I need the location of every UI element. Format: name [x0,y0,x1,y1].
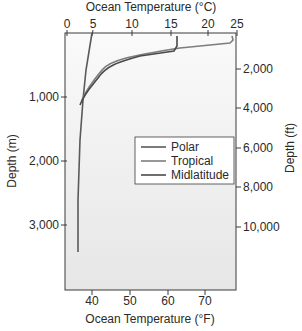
svg-text:3,000: 3,000 [29,218,59,232]
svg-text:4,000: 4,000 [243,101,273,115]
y-left-axis-label: Depth (m) [5,134,19,187]
legend-polar-label: Polar [171,140,199,154]
x-bottom-ticks: 40 50 60 70 [85,294,212,308]
svg-text:6,000: 6,000 [243,141,273,155]
svg-text:40: 40 [85,294,99,308]
svg-text:1,000: 1,000 [29,90,59,104]
svg-text:5: 5 [90,17,97,31]
y-right-ticks: 2,000 4,000 6,000 8,000 10,000 [243,62,280,234]
svg-text:2,000: 2,000 [29,154,59,168]
svg-text:70: 70 [198,294,212,308]
svg-text:0: 0 [64,17,71,31]
svg-text:10: 10 [125,17,139,31]
svg-text:60: 60 [161,294,175,308]
legend-midlatitude-label: Midlatitude [171,168,229,182]
svg-text:15: 15 [164,17,178,31]
y-left-ticks: 1,000 2,000 3,000 [29,90,59,232]
svg-text:50: 50 [123,294,137,308]
x-top-axis-label: Ocean Temperature (°C) [86,0,217,14]
svg-text:8,000: 8,000 [243,180,273,194]
x-top-ticks: 0 5 10 15 20 25 [64,17,244,31]
ocean-temperature-chart: Ocean Temperature (°C) 0 5 10 15 20 25 D… [0,0,302,331]
y-right-axis-label: Depth (ft) [283,123,297,173]
svg-text:10,000: 10,000 [243,220,280,234]
svg-text:20: 20 [201,17,215,31]
svg-text:2,000: 2,000 [243,62,273,76]
legend: Polar Tropical Midlatitude [135,137,234,184]
x-bottom-axis-label: Ocean Temperature (°F) [85,312,214,326]
legend-tropical-label: Tropical [171,154,213,168]
svg-text:25: 25 [230,17,244,31]
